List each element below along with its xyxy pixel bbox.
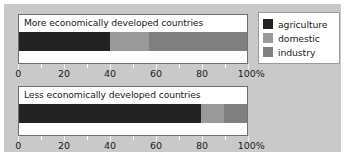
panel-title-medc: More economically developed countries bbox=[24, 17, 203, 28]
x-axis-ledc: 020406080100% bbox=[18, 136, 248, 154]
water-use-stacked-bar-chart: More economically developed countries 02… bbox=[0, 0, 347, 163]
axis-tick-label: 100% bbox=[238, 68, 265, 79]
axis-tick-label: 80 bbox=[196, 68, 208, 79]
axis-tick-label: 40 bbox=[104, 140, 116, 151]
bar-segment-industry-ledc bbox=[224, 104, 247, 123]
legend-item-industry: industry bbox=[263, 45, 335, 59]
axis-minor-tick bbox=[133, 64, 134, 68]
legend-item-domestic: domestic bbox=[263, 31, 335, 45]
axis-minor-tick bbox=[41, 136, 42, 140]
stacked-bar-ledc bbox=[19, 104, 247, 123]
legend-label-agriculture: agriculture bbox=[278, 19, 327, 30]
panel-title-ledc: Less economically developed countries bbox=[24, 89, 201, 100]
axis-tick-label: 100% bbox=[238, 140, 265, 151]
axis-minor-tick bbox=[87, 136, 88, 140]
bar-segment-agriculture-ledc bbox=[19, 104, 201, 123]
axis-tick-label: 60 bbox=[150, 140, 162, 151]
axis-tick-label: 20 bbox=[58, 68, 70, 79]
bar-segment-agriculture-medc bbox=[19, 32, 110, 51]
axis-minor-tick bbox=[225, 136, 226, 140]
bar-segment-industry-medc bbox=[149, 32, 247, 51]
axis-tick-label: 60 bbox=[150, 68, 162, 79]
axis-tick-label: 0 bbox=[15, 140, 21, 151]
axis-minor-tick bbox=[225, 64, 226, 68]
bar-segment-domestic-medc bbox=[110, 32, 149, 51]
axis-minor-tick bbox=[133, 136, 134, 140]
legend-label-domestic: domestic bbox=[278, 33, 320, 44]
axis-minor-tick bbox=[179, 64, 180, 68]
legend-item-agriculture: agriculture bbox=[263, 17, 335, 31]
axis-tick-label: 20 bbox=[58, 140, 70, 151]
panel-less-economically-developed-countries: Less economically developed countries bbox=[18, 86, 248, 136]
axis-tick-label: 0 bbox=[15, 68, 21, 79]
axis-minor-tick bbox=[179, 136, 180, 140]
axis-tick-label: 40 bbox=[104, 68, 116, 79]
bar-segment-domestic-ledc bbox=[201, 104, 224, 123]
axis-minor-tick bbox=[41, 64, 42, 68]
legend-swatch-domestic-icon bbox=[263, 33, 273, 43]
panel-more-economically-developed-countries: More economically developed countries bbox=[18, 14, 248, 64]
axis-tick-label: 80 bbox=[196, 140, 208, 151]
stacked-bar-medc bbox=[19, 32, 247, 51]
legend-swatch-industry-icon bbox=[263, 47, 273, 57]
x-axis-medc: 020406080100% bbox=[18, 64, 248, 82]
legend-swatch-agriculture-icon bbox=[263, 19, 273, 29]
legend: agriculture domestic industry bbox=[258, 12, 340, 64]
legend-label-industry: industry bbox=[278, 47, 315, 58]
axis-minor-tick bbox=[87, 64, 88, 68]
